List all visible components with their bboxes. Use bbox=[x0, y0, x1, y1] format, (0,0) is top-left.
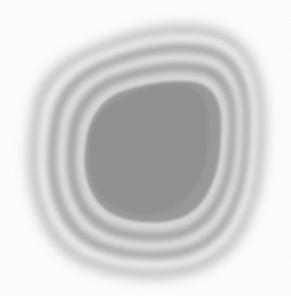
concentric-blob-figure bbox=[0, 0, 291, 296]
image-canvas bbox=[0, 0, 291, 296]
grain-overlay bbox=[0, 0, 291, 296]
